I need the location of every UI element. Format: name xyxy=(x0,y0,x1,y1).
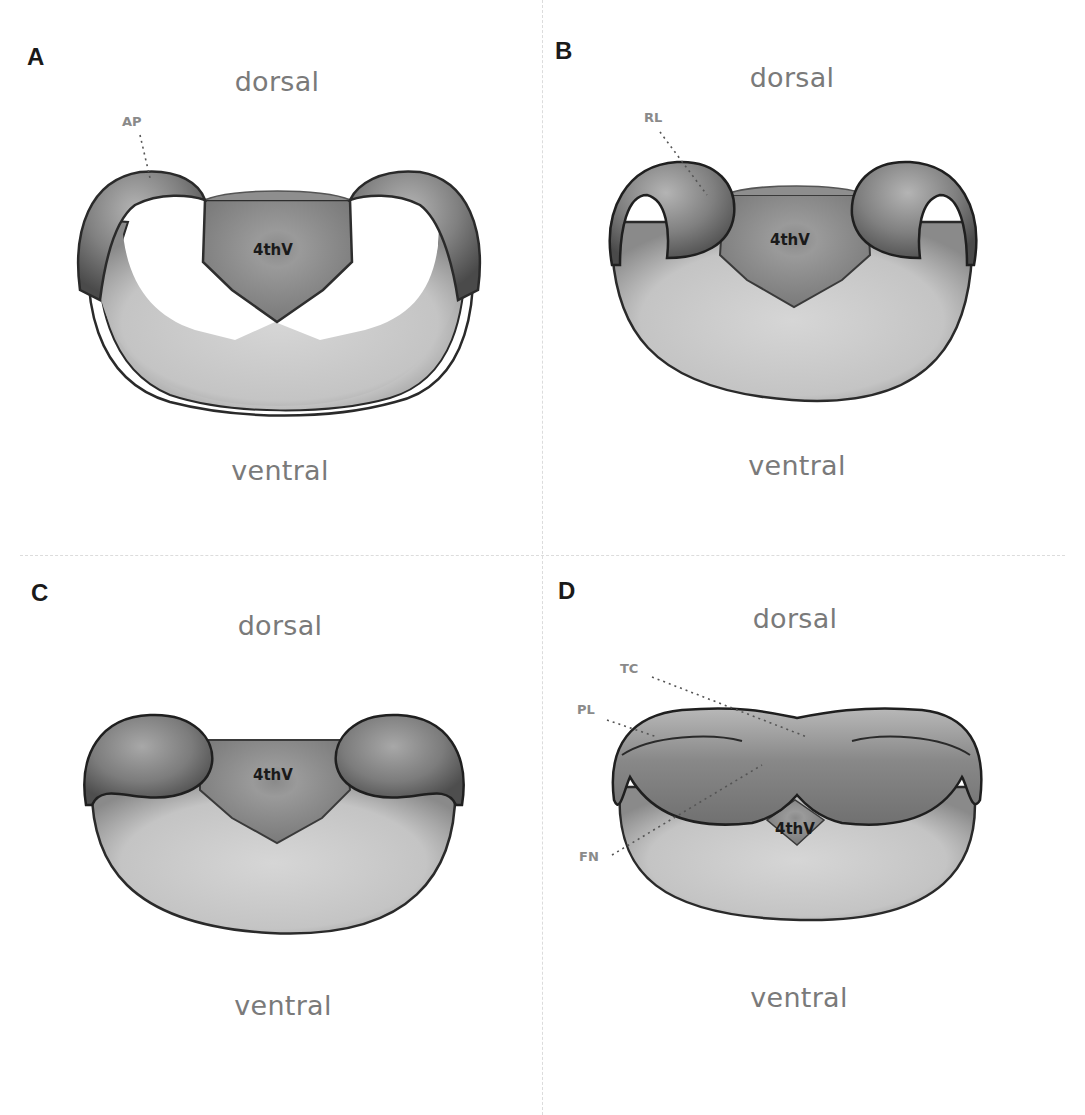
panel-b: B dorsal ventral RL 4thV xyxy=(542,0,1085,555)
hindbrain-diagram-d: 4thV xyxy=(542,555,1085,1115)
hindbrain-diagram-a: 4thV xyxy=(0,0,540,555)
alar-plate-right xyxy=(350,171,480,300)
ventricle-label: 4thV xyxy=(253,241,293,259)
panel-d: D dorsal ventral TC PL FN 4thV xyxy=(542,555,1085,1115)
panel-c: C dorsal ventral 4thV xyxy=(0,555,540,1115)
hindbrain-diagram-c: 4thV xyxy=(0,555,540,1115)
hindbrain-diagram-b: 4thV xyxy=(542,0,1085,555)
ventricle-label: 4thV xyxy=(253,766,293,784)
alar-plate-left xyxy=(78,171,205,300)
fourth-ventricle xyxy=(203,200,352,322)
ventricle-label: 4thV xyxy=(770,231,810,249)
ventricle-label: 4thV xyxy=(775,820,815,838)
panel-a: A dorsal ventral AP 4thV xyxy=(0,0,540,555)
